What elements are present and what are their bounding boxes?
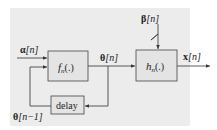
svg-text:θ[n]: θ[n] <box>100 52 118 63</box>
svg-text:x[n]: x[n] <box>183 51 201 62</box>
block-delay-label: delay <box>56 100 78 111</box>
block-h-label: hn(.) <box>146 60 164 74</box>
signal-beta: β[n] <box>141 13 159 49</box>
block-f-label: fn(.) <box>58 61 74 75</box>
signal-theta: θ[n] <box>88 52 135 66</box>
svg-text:β[n]: β[n] <box>141 13 159 24</box>
svg-text:α[n]: α[n] <box>20 44 38 55</box>
block-delay: delay <box>51 96 84 114</box>
signal-x: x[n] <box>177 51 210 66</box>
signal-theta-prev: θ[n−1] <box>13 67 51 122</box>
diagram-svg: fn(.) hn(.) delay α[n] θ[n] θ[n− <box>0 0 217 130</box>
block-f: fn(.) <box>48 51 88 81</box>
block-h: hn(.) <box>136 50 177 81</box>
svg-text:θ[n−1]: θ[n−1] <box>13 111 43 122</box>
signal-alpha: α[n] <box>17 44 47 58</box>
signal-theta-branch <box>85 66 108 106</box>
block-diagram: fn(.) hn(.) delay α[n] θ[n] θ[n− <box>0 0 217 130</box>
